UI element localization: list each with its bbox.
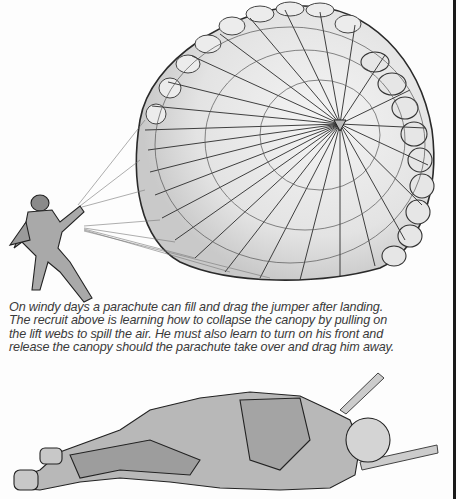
parachute-canopy-illustration bbox=[0, 0, 452, 305]
caption-line: the lift webs to spill the air. He must … bbox=[9, 328, 449, 341]
soldier-standing bbox=[10, 195, 92, 302]
canopy-outline bbox=[136, 6, 433, 280]
book-page: On windy days a parachute can fill and d… bbox=[0, 0, 458, 499]
helmet bbox=[346, 418, 390, 462]
soldier-lying bbox=[14, 392, 390, 490]
caption-line: release the canopy should the parachute … bbox=[9, 341, 449, 354]
soldier-lying-illustration bbox=[0, 372, 452, 499]
caption-line: The recruit above is learning how to col… bbox=[9, 314, 449, 327]
caption-line: On windy days a parachute can fill and d… bbox=[9, 301, 449, 314]
page-edge-rule bbox=[453, 0, 456, 499]
illustration-caption: On windy days a parachute can fill and d… bbox=[9, 301, 449, 355]
